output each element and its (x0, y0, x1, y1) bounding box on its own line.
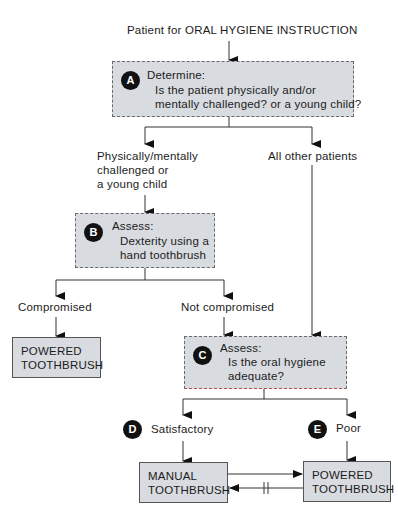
outcome-powered-toothbrush-right: POWERED TOOTHBRUSH (303, 461, 391, 502)
label-all-other-patients: All other patients (268, 150, 357, 163)
outcome-manual-toothbrush: MANUAL TOOTHBRUSH (139, 462, 228, 503)
manual-line2: TOOTHBRUSH (148, 483, 230, 497)
step-badge-d: D (123, 420, 142, 439)
box-c-line2: adequate? (228, 369, 284, 383)
label-compromised: Compromised (18, 301, 92, 314)
box-a-line1: Is the patient physically and/or (155, 83, 316, 97)
label-challenged-line3: a young child (97, 178, 167, 191)
label-challenged-line2: challenged or (97, 164, 169, 177)
label-satisfactory: Satisfactory (151, 423, 213, 436)
powered-right-line2: TOOTHBRUSH (312, 482, 394, 496)
manual-line1: MANUAL (148, 469, 197, 483)
step-badge-e: E (308, 420, 327, 439)
box-b-line2: hand toothbrush (120, 248, 206, 262)
label-challenged-line1: Physically/mentally (97, 150, 198, 163)
decision-box-a: A Determine: Is the patient physically a… (112, 61, 354, 117)
box-c-heading: Assess: (220, 341, 262, 355)
powered-left-line2: TOOTHBRUSH (21, 358, 103, 372)
flowchart-title: Patient for ORAL HYGIENE INSTRUCTION (127, 24, 357, 37)
assess-box-b: B Assess: Dexterity using a hand toothbr… (75, 213, 215, 268)
label-poor: Poor (336, 422, 361, 435)
box-b-heading: Assess: (112, 219, 154, 233)
powered-right-line1: POWERED (312, 468, 373, 482)
step-badge-c: C (193, 346, 212, 365)
outcome-powered-toothbrush-left: POWERED TOOTHBRUSH (12, 337, 101, 378)
box-b-line1: Dexterity using a (120, 234, 209, 248)
label-not-compromised: Not compromised (181, 301, 274, 314)
powered-left-line1: POWERED (21, 344, 82, 358)
step-badge-a: A (121, 71, 140, 90)
assess-box-c: C Assess: Is the oral hygiene adequate? (184, 336, 347, 389)
box-a-line2: mentally challenged? or a young child? (155, 97, 361, 111)
box-c-line1: Is the oral hygiene (228, 355, 326, 369)
step-badge-b: B (84, 223, 103, 242)
box-a-heading: Determine: (147, 68, 205, 82)
